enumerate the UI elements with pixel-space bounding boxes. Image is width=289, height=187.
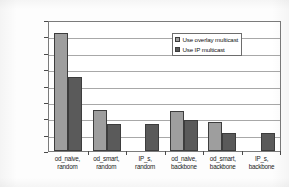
x-axis-label: IP_s,random: [126, 155, 165, 172]
y-tick-mark: [44, 119, 48, 120]
x-axis-label-line: backbone: [164, 163, 203, 171]
bar-chart-figure: Multicast bandwidth consumption (KB*sec)…: [0, 0, 289, 187]
x-axis-label-line: od_naive,: [164, 155, 203, 163]
legend-item-overlay: Use overlay multicast: [175, 36, 238, 43]
x-axis-label: od_naive,backbone: [164, 155, 203, 172]
bar: [68, 77, 82, 151]
legend-swatch-ip-multicast: [175, 47, 180, 52]
bar: [93, 110, 107, 151]
bar: [222, 133, 236, 151]
x-axis-label-line: IP_s,: [242, 155, 281, 163]
bar-group: [88, 22, 127, 151]
bar-group: [126, 22, 165, 151]
bar: [208, 122, 222, 151]
x-axis-label-line: od_smart,: [87, 155, 126, 163]
y-tick-mark: [44, 70, 48, 71]
y-tick-mark: [44, 37, 48, 38]
plot-area: [48, 21, 281, 152]
chart-legend: Use overlay multicast Use IP multicast: [172, 33, 242, 56]
bar: [107, 124, 121, 151]
bar: [184, 120, 198, 151]
bar: [145, 124, 159, 151]
x-axis-label-line: backbone: [203, 163, 242, 171]
bar: [170, 111, 184, 151]
y-tick-mark: [44, 54, 48, 55]
x-axis-label: od_smart,random: [87, 155, 126, 172]
legend-label-overlay-multicast: Use overlay multicast: [183, 36, 239, 43]
bar: [261, 133, 275, 151]
y-tick-mark: [44, 136, 48, 137]
x-axis-label-line: IP_s,: [126, 155, 165, 163]
x-axis-label: IP_s,backbone: [242, 155, 281, 172]
y-tick-mark: [44, 152, 48, 153]
x-axis-label: od_naive,random: [48, 155, 87, 172]
y-tick-mark: [44, 103, 48, 104]
x-axis-label-line: od_smart,: [203, 155, 242, 163]
x-axis-label-line: random: [126, 163, 165, 171]
x-axis-label-line: random: [48, 163, 87, 171]
x-axis-label-line: od_naive,: [48, 155, 87, 163]
y-tick-mark: [44, 21, 48, 22]
bar-group: [242, 22, 281, 151]
x-axis-labels: od_naive,randomod_smart,randomIP_s,rando…: [48, 155, 281, 172]
bar-group: [49, 22, 88, 151]
legend-swatch-overlay-multicast: [175, 37, 180, 42]
y-tick-mark: [44, 87, 48, 88]
x-axis-label-line: backbone: [242, 163, 281, 171]
bar-series-container: [49, 22, 280, 151]
x-axis-label: od_smart,backbone: [203, 155, 242, 172]
legend-label-ip-multicast: Use IP multicast: [183, 46, 225, 53]
bar: [54, 33, 68, 151]
legend-item-ip: Use IP multicast: [175, 46, 238, 53]
x-axis-label-line: random: [87, 163, 126, 171]
